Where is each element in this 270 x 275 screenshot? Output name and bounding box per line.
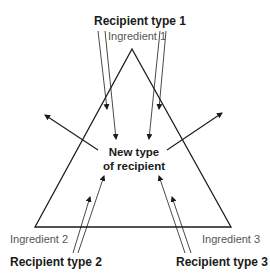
recipient-type-1-label: Recipient type 1 [94, 15, 186, 27]
type3-arrows [159, 176, 191, 253]
ingredient-1-label: Ingredient 1 [108, 31, 166, 42]
ingredient-2-label: Ingredient 2 [10, 234, 68, 245]
recipient-type-3-label: Recipient type 3 [176, 256, 268, 268]
center-label-line1: New type [96, 145, 172, 159]
type2-arrows [73, 176, 104, 253]
type1-arrows [98, 31, 166, 139]
center-label: New type of recipient [96, 145, 172, 173]
recipient-type-2-label: Recipient type 2 [10, 256, 102, 268]
ingredient-3-label: Ingredient 3 [202, 234, 260, 245]
triangle-outline [35, 49, 231, 227]
center-label-line2: of recipient [96, 159, 172, 173]
